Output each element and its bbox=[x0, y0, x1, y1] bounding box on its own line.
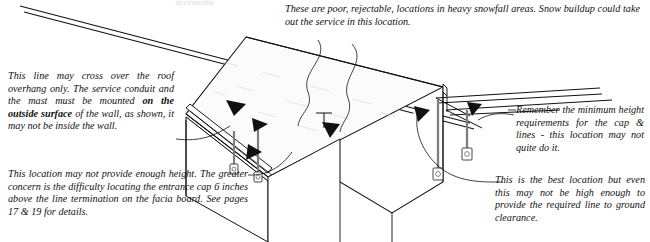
note-best-location: This is the best location but even this … bbox=[495, 174, 645, 224]
service-mast-gable-2 bbox=[462, 110, 472, 160]
note-cross-roof: This line may cross over the roof overha… bbox=[8, 70, 174, 133]
note-snowfall: These are poor, rejectable, locations in… bbox=[285, 3, 640, 28]
gable-rake-board bbox=[443, 84, 447, 182]
figure-canvas: acceptable This line may cross over the … bbox=[0, 0, 650, 242]
note-not-enough-height: This location may not provide enough hei… bbox=[8, 168, 248, 218]
meter-socket-gable-1 bbox=[433, 168, 443, 180]
note-minimum-height: Remember the minimum height requirements… bbox=[516, 104, 644, 154]
faint-top-text: acceptable bbox=[135, 0, 255, 5]
meter-socket-gable-2 bbox=[462, 148, 472, 160]
meter-socket-eave-2 bbox=[254, 172, 262, 182]
